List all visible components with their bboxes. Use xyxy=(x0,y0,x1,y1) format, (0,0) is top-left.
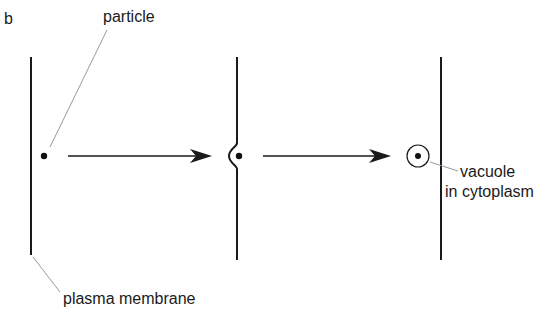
stage-2 xyxy=(229,57,242,260)
particle-leader-line xyxy=(50,30,107,147)
arrow-1 xyxy=(68,149,212,163)
plasma-membrane-leader-line xyxy=(33,257,60,292)
vacuole-label-line2: in cytoplasm xyxy=(445,183,534,200)
endocytosis-diagram: b particle vacuole in cytoplasm plasma m… xyxy=(0,0,552,316)
stage-1 xyxy=(31,57,47,255)
plasma-membrane-label: plasma membrane xyxy=(63,290,196,307)
particle-3 xyxy=(415,153,421,159)
membrane-2-invaginating xyxy=(229,57,237,260)
vacuole-leader-line xyxy=(430,162,458,171)
particle-label: particle xyxy=(103,8,155,25)
stage-3 xyxy=(407,57,441,260)
particle-2 xyxy=(236,153,242,159)
arrow-2 xyxy=(263,149,391,163)
particle-1 xyxy=(41,153,47,159)
vacuole-label-line1: vacuole xyxy=(460,163,515,180)
panel-label: b xyxy=(4,10,13,27)
